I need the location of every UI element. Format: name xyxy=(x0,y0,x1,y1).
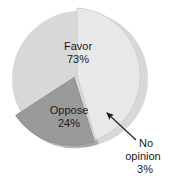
oppose-label: Oppose xyxy=(50,104,89,116)
oppose-value: 24% xyxy=(58,117,80,129)
favor-label: Favor xyxy=(64,40,92,52)
no-opinion-label-line2: opinion xyxy=(125,150,160,162)
pie-chart-svg: Favor 73% Oppose 24% No opinion 3% xyxy=(0,0,174,181)
favor-value: 73% xyxy=(67,53,89,65)
pie-chart-figure: Favor 73% Oppose 24% No opinion 3% xyxy=(0,0,174,181)
no-opinion-label-line1: No xyxy=(139,137,153,149)
no-opinion-value: 3% xyxy=(137,163,153,175)
